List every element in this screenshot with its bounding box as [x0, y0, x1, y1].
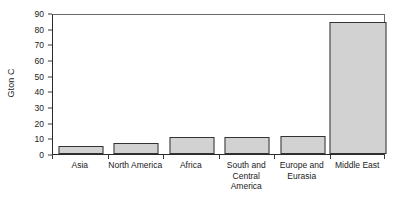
bar-slot	[109, 15, 165, 154]
x-axis-category-labels: AsiaNorth AmericaAfricaSouth and Central…	[52, 160, 385, 202]
y-axis-tick-labels: 0102030405060708090	[22, 14, 46, 155]
x-axis-category-label: Europe and Eurasia	[274, 160, 330, 181]
y-axis-tick-label: 10	[35, 135, 44, 143]
y-axis-tick-label: 70	[35, 41, 44, 49]
y-axis-tick-label: 30	[35, 104, 44, 112]
x-axis-tick-mark	[384, 155, 385, 159]
bar-slot	[331, 15, 387, 154]
bar[interactable]	[330, 22, 387, 154]
x-axis-category-label: Africa	[163, 160, 219, 171]
y-axis-tick-label: 0	[39, 151, 44, 159]
bar-slot	[220, 15, 276, 154]
x-axis-tick-mark	[219, 155, 220, 159]
bar[interactable]	[280, 136, 325, 154]
bar-slot	[275, 15, 331, 154]
bar-slot	[53, 15, 109, 154]
x-axis-tick-mark	[330, 155, 331, 159]
x-axis-tick-mark	[108, 155, 109, 159]
bar-chart: Gton C 0102030405060708090 AsiaNorth Ame…	[0, 0, 403, 202]
y-axis-title: Gton C	[0, 0, 22, 165]
y-axis-title-label: Gton C	[6, 68, 16, 97]
plot-area	[52, 14, 385, 155]
x-axis-category-label: Middle East	[330, 160, 386, 171]
y-axis-tick-label: 90	[35, 10, 44, 18]
y-axis-tick-label: 50	[35, 73, 44, 81]
bar-slot	[164, 15, 220, 154]
y-axis-tick-label: 20	[35, 120, 44, 128]
x-axis-category-label: Asia	[52, 160, 108, 171]
x-axis-tick-mark	[274, 155, 275, 159]
bar[interactable]	[58, 146, 103, 154]
x-axis-tick-mark	[52, 155, 53, 159]
bar[interactable]	[225, 137, 270, 154]
y-axis-tick-label: 80	[35, 26, 44, 34]
y-axis-tick-label: 60	[35, 57, 44, 65]
bar[interactable]	[114, 143, 159, 154]
bars-layer	[53, 15, 384, 154]
bar[interactable]	[169, 137, 214, 154]
y-axis-tick-label: 40	[35, 88, 44, 96]
x-axis-category-label: North America	[108, 160, 164, 171]
x-axis-category-label: South and Central America	[219, 160, 275, 192]
x-axis-tick-mark	[163, 155, 164, 159]
